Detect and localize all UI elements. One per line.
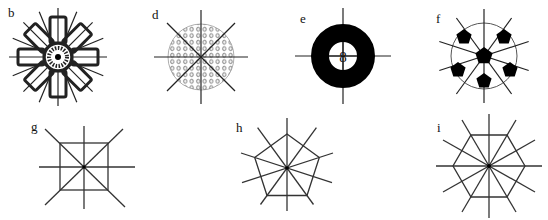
- mirror-axes-d: [154, 10, 248, 104]
- dotted-circle-figure-d: [154, 10, 248, 104]
- mirror-axes-g: [39, 126, 135, 209]
- central-rosette-b: [45, 44, 71, 70]
- rosette-figure-b: [9, 8, 107, 106]
- center-glyph-e: 8: [339, 49, 347, 65]
- pentagon-circle-figure-f: [439, 9, 528, 103]
- square-figure-g: [39, 126, 135, 209]
- mirror-axes-h: [241, 118, 333, 211]
- annulus-figure-e: 8: [295, 8, 391, 104]
- hexagon-figure-i: [436, 114, 542, 218]
- pentagon-figure-h: [241, 118, 333, 211]
- symmetry-diagrams: 8: [0, 0, 548, 220]
